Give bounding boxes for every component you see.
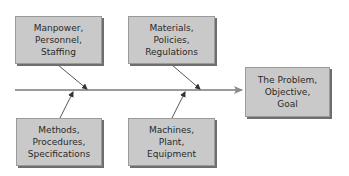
cause-arrow-machines — [172, 92, 185, 118]
cause-arrow-methods — [60, 92, 73, 118]
cause-arrow-manpower — [58, 65, 87, 89]
cause-arrow-materials — [172, 65, 200, 89]
cause-label-line: Regulations — [145, 46, 198, 58]
effect-box-problem: The Problem, Objective, Goal — [245, 67, 330, 117]
cause-label-line: Equipment — [147, 148, 196, 160]
effect-label-line: The Problem, — [258, 74, 317, 86]
effect-label-line: Objective, — [258, 86, 317, 98]
cause-label-line: Methods, — [28, 124, 90, 136]
cause-box-machines: Machines, Plant, Equipment — [128, 118, 215, 166]
cause-label-line: Machines, — [147, 124, 196, 136]
cause-box-methods: Methods, Procedures, Specifications — [16, 118, 102, 166]
effect-label-line: Goal — [258, 98, 317, 110]
cause-label-line: Manpower, — [34, 22, 84, 34]
cause-label-line: Policies, — [145, 34, 198, 46]
cause-label-line: Staffing — [34, 46, 84, 58]
cause-box-materials: Materials, Policies, Regulations — [128, 16, 215, 64]
cause-box-manpower: Manpower, Personnel, Staffing — [15, 16, 102, 64]
cause-label-line: Personnel, — [34, 34, 84, 46]
cause-label-line: Procedures, — [28, 136, 90, 148]
cause-label-line: Materials, — [145, 22, 198, 34]
cause-label-line: Plant, — [147, 136, 196, 148]
cause-label-line: Specifications — [28, 148, 90, 160]
